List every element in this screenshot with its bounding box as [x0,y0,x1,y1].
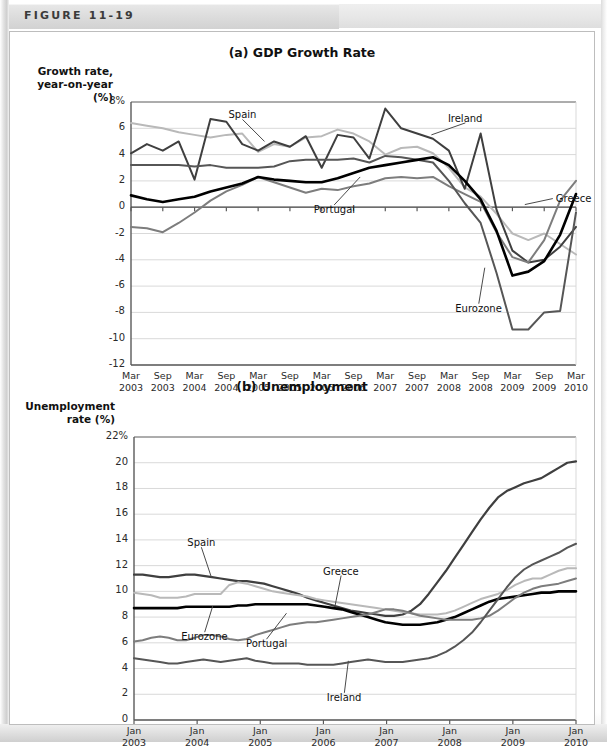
figure-number-label: FIGURE 11-19 [24,9,135,22]
page-left-gutter [0,0,9,742]
panel-b-xtick-label: Jan2009 [491,725,535,749]
xtick-month: Jan [301,725,345,737]
xtick-month: Jan [238,725,282,737]
series-label-portugal: Portugal [314,204,355,215]
xtick-month: Jan [112,725,156,737]
xtick-month: Jan [554,725,598,737]
panel-b-xtick-label: Jan2007 [365,725,409,749]
panel-a-chart: 8%6420-2-4-6-8-10-12Mar2003Sep2003Mar200… [10,32,596,362]
series-label-spain: Spain [187,537,215,548]
panel-a-ytick-label: -4 [91,253,125,264]
panel-b-ytick-label: 14 [94,533,128,544]
panel-b-ytick-label: 0 [94,713,128,724]
panel-b-xtick-label: Jan2006 [301,725,345,749]
panel-b-chart: 22%20181614121086420Jan2003Jan2004Jan200… [10,372,596,724]
series-label-ireland: Ireland [327,692,362,703]
panel-b-ytick-label: 6 [94,636,128,647]
panel-b-ytick-label: 16 [94,507,128,518]
panel-a-ytick-label: -10 [91,332,125,343]
figure-card: (a) GDP Growth Rate Growth rate, year-on… [9,31,595,725]
xtick-month: Jan [365,725,409,737]
series-label-eurozone: Eurozone [455,303,502,314]
panel-a-ytick-label: 8% [91,95,125,106]
panel-b-ytick-label: 10 [94,584,128,595]
panel-a-ytick-label: -12 [91,358,125,369]
xtick-month: Jan [491,725,535,737]
panel-b-ytick-label: 8 [94,610,128,621]
xtick-year: 2009 [491,737,535,749]
xtick-year: 2005 [238,737,282,749]
xtick-year: 2003 [112,737,156,749]
panel-a-ytick-label: -2 [91,227,125,238]
panel-a-ytick-label: -8 [91,305,125,316]
panel-b-ytick-label: 18 [94,481,128,492]
xtick-year: 2010 [554,737,598,749]
panel-a-ytick-label: 2 [91,174,125,185]
panel-b-ytick-label: 20 [94,456,128,467]
panel-b-ytick-label: 4 [94,662,128,673]
series-label-greece: Greece [323,566,359,577]
panel-b-xtick-label: Jan2003 [112,725,156,749]
series-label-portugal: Portugal [246,638,287,649]
panel-b-ytick-label: 22% [94,430,128,441]
xtick-month: Jan [428,725,472,737]
series-label-spain: Spain [229,109,257,120]
page-right-gutter [601,0,607,742]
series-label-greece: Greece [556,193,592,204]
xtick-year: 2006 [301,737,345,749]
series-label-eurozone: Eurozone [181,631,228,642]
panel-b-ytick-label: 2 [94,687,128,698]
panel-a-ytick-label: -6 [91,279,125,290]
xtick-year: 2004 [175,737,219,749]
panel-b-xtick-label: Jan2010 [554,725,598,749]
panel-a-ytick-label: 4 [91,148,125,159]
xtick-year: 2007 [365,737,409,749]
panel-a-ytick-label: 0 [91,200,125,211]
xtick-year: 2008 [428,737,472,749]
panel-b-xtick-label: Jan2008 [428,725,472,749]
panel-b-xtick-label: Jan2004 [175,725,219,749]
panel-a-ytick-label: 6 [91,121,125,132]
xtick-month: Jan [175,725,219,737]
panel-b-ytick-label: 12 [94,559,128,570]
figure-header-bar [339,4,601,28]
series-label-ireland: Ireland [448,113,483,124]
panel-b-xtick-label: Jan2005 [238,725,282,749]
